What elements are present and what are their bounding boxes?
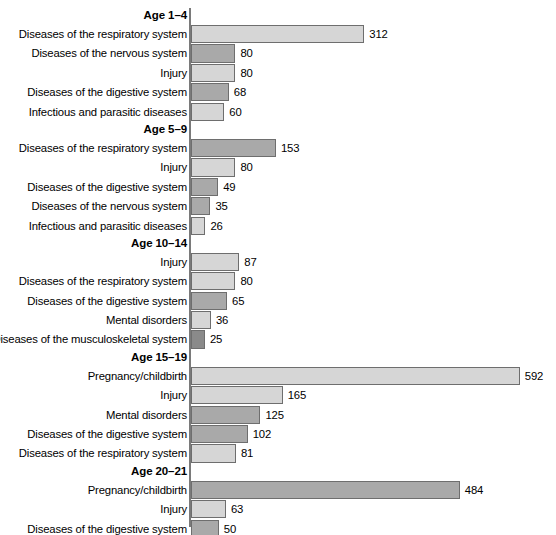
bar-value-label: 80 <box>240 67 252 79</box>
bar <box>191 386 283 404</box>
group-title: Age 1–4 <box>0 9 187 21</box>
category-label: Mental disorders <box>0 409 187 421</box>
category-label: Injury <box>0 503 187 515</box>
group-header: Age 15–19 <box>0 350 556 367</box>
bar <box>191 217 205 235</box>
category-label: Diseases of the respiratory system <box>0 142 187 154</box>
bar-value-label: 81 <box>241 447 253 459</box>
bar <box>191 64 235 82</box>
bar-value-label: 65 <box>232 295 244 307</box>
bar <box>191 44 235 62</box>
category-label: Infectious and parasitic diseases <box>0 106 187 118</box>
group-title: Age 15–19 <box>0 351 187 363</box>
bar-value-label: 102 <box>253 428 271 440</box>
category-label: Diseases of the musculoskeletal system <box>0 333 187 345</box>
bar <box>191 330 205 348</box>
category-label: Diseases of the digestive system <box>0 523 187 535</box>
chart-group: Age 20–21Pregnancy/childbirth484Injury63… <box>0 464 556 535</box>
bar <box>191 103 224 121</box>
category-label: Pregnancy/childbirth <box>0 370 187 382</box>
bar-row: Diseases of the respiratory system153 <box>0 139 556 158</box>
category-label: Diseases of the respiratory system <box>0 28 187 40</box>
bar-row: Diseases of the digestive system102 <box>0 425 556 444</box>
chart-group: Age 5–9Diseases of the respiratory syste… <box>0 122 556 236</box>
bar <box>191 311 211 329</box>
category-label: Diseases of the digestive system <box>0 295 187 307</box>
category-label: Diseases of the respiratory system <box>0 275 187 287</box>
category-label: Injury <box>0 389 187 401</box>
bar <box>191 83 229 101</box>
group-header: Age 1–4 <box>0 8 556 25</box>
category-label: Infectious and parasitic diseases <box>0 220 187 232</box>
bar-row: Infectious and parasitic diseases60 <box>0 103 556 122</box>
group-title: Age 10–14 <box>0 237 187 249</box>
bar-row: Pregnancy/childbirth592 <box>0 367 556 386</box>
group-title: Age 20–21 <box>0 465 187 477</box>
chart-groups-container: Age 1–4Diseases of the respiratory syste… <box>0 8 556 535</box>
bar-row: Injury165 <box>0 386 556 405</box>
category-label: Diseases of the digestive system <box>0 181 187 193</box>
bar <box>191 500 226 518</box>
bar-value-label: 26 <box>210 220 222 232</box>
bar-row: Diseases of the respiratory system81 <box>0 444 556 463</box>
bar <box>191 481 460 499</box>
group-header: Age 20–21 <box>0 464 556 481</box>
group-title: Age 5–9 <box>0 123 187 135</box>
bar-value-label: 592 <box>525 370 543 382</box>
category-label: Injury <box>0 67 187 79</box>
category-label: Mental disorders <box>0 314 187 326</box>
category-label: Injury <box>0 161 187 173</box>
category-label: Injury <box>0 256 187 268</box>
bar-value-label: 87 <box>244 256 256 268</box>
bar-chart: Age 1–4Diseases of the respiratory syste… <box>0 0 556 535</box>
bar-value-label: 80 <box>240 275 252 287</box>
group-header: Age 5–9 <box>0 122 556 139</box>
bar-value-label: 125 <box>265 409 283 421</box>
bar-row: Diseases of the digestive system68 <box>0 83 556 102</box>
bar-row: Injury80 <box>0 158 556 177</box>
bar-row: Mental disorders36 <box>0 311 556 330</box>
bar-value-label: 68 <box>234 86 246 98</box>
category-label: Pregnancy/childbirth <box>0 484 187 496</box>
bar-value-label: 312 <box>369 28 387 40</box>
category-label: Diseases of the nervous system <box>0 47 187 59</box>
bar <box>191 367 520 385</box>
bar-value-label: 153 <box>281 142 299 154</box>
bar <box>191 25 364 43</box>
category-label: Diseases of the digestive system <box>0 86 187 98</box>
group-header: Age 10–14 <box>0 236 556 253</box>
bar-row: Infectious and parasitic diseases26 <box>0 217 556 236</box>
bar-row: Diseases of the respiratory system312 <box>0 25 556 44</box>
bar-row: Injury80 <box>0 64 556 83</box>
bar-value-label: 25 <box>210 333 222 345</box>
bar-value-label: 80 <box>240 47 252 59</box>
bar <box>191 178 218 196</box>
bar-row: Diseases of the nervous system35 <box>0 197 556 216</box>
bar-row: Mental disorders125 <box>0 406 556 425</box>
bar-row: Diseases of the nervous system80 <box>0 44 556 63</box>
bar <box>191 197 210 215</box>
bar-value-label: 36 <box>216 314 228 326</box>
bar-row: Diseases of the digestive system50 <box>0 520 556 535</box>
bar-row: Diseases of the musculoskeletal system25 <box>0 330 556 349</box>
category-label: Diseases of the respiratory system <box>0 447 187 459</box>
chart-group: Age 10–14Injury87Diseases of the respira… <box>0 236 556 350</box>
bar <box>191 406 260 424</box>
bar-row: Diseases of the respiratory system80 <box>0 272 556 291</box>
bar <box>191 158 235 176</box>
bar <box>191 520 219 535</box>
bar-value-label: 80 <box>240 161 252 173</box>
category-label: Diseases of the digestive system <box>0 428 187 440</box>
bar-row: Diseases of the digestive system65 <box>0 292 556 311</box>
bar <box>191 253 239 271</box>
bar-value-label: 50 <box>224 523 236 535</box>
bar-value-label: 49 <box>223 181 235 193</box>
bar <box>191 292 227 310</box>
bar-value-label: 484 <box>465 484 483 496</box>
bar-row: Injury63 <box>0 500 556 519</box>
bar-value-label: 60 <box>229 106 241 118</box>
bar-value-label: 165 <box>288 389 306 401</box>
bar <box>191 425 248 443</box>
bar-value-label: 63 <box>231 503 243 515</box>
bar <box>191 139 276 157</box>
